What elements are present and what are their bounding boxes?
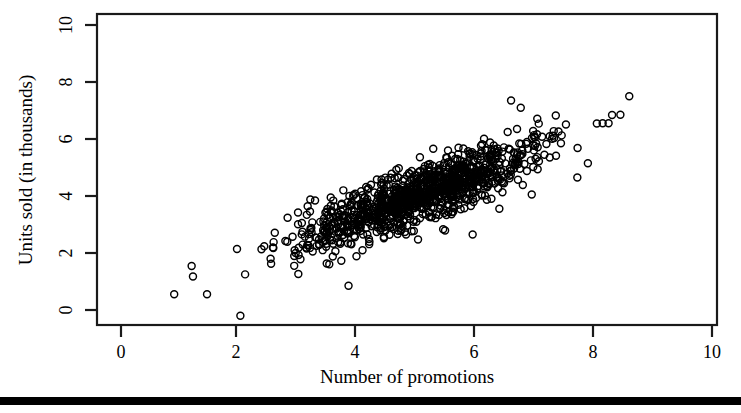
data-point-outlier-7 xyxy=(584,160,591,167)
x-tick-label-10: 10 xyxy=(703,342,721,362)
data-point xyxy=(440,226,447,233)
data-point-outlier-5 xyxy=(508,97,515,104)
plot-canvas: 0 2 4 6 8 10 0 2 4 6 8 10 Number of prom… xyxy=(0,0,741,413)
data-point xyxy=(188,263,195,270)
data-point xyxy=(517,104,524,111)
data-point-outlier-3 xyxy=(345,282,352,289)
data-point xyxy=(271,229,278,236)
data-point-outlier-11 xyxy=(626,93,633,100)
data-point xyxy=(609,111,616,118)
y-axis-ticks xyxy=(85,25,97,310)
x-tick-label-8: 8 xyxy=(589,342,598,362)
y-tick-label-8: 8 xyxy=(56,78,76,87)
data-point xyxy=(340,187,347,194)
data-point xyxy=(557,140,564,147)
data-point xyxy=(267,255,274,262)
scatter-plot-figure: 0 2 4 6 8 10 0 2 4 6 8 10 Number of prom… xyxy=(0,0,741,413)
data-point xyxy=(430,145,437,152)
data-point xyxy=(295,270,302,277)
y-tick-label-2: 2 xyxy=(56,249,76,258)
y-tick-label-10: 10 xyxy=(56,16,76,34)
x-axis-tick-labels: 0 2 4 6 8 10 xyxy=(117,342,722,362)
x-tick-label-6: 6 xyxy=(470,342,479,362)
x-tick-label-4: 4 xyxy=(351,342,360,362)
x-axis-title: Number of promotions xyxy=(320,366,494,387)
data-point xyxy=(499,189,506,196)
data-point xyxy=(488,195,495,202)
data-point xyxy=(284,214,291,221)
data-point xyxy=(312,197,319,204)
data-point xyxy=(552,112,559,119)
data-point xyxy=(338,257,345,264)
data-point-outlier-0 xyxy=(171,291,178,298)
x-axis-ticks xyxy=(121,325,712,337)
data-points-layer xyxy=(171,93,633,319)
data-point xyxy=(562,121,569,128)
data-point xyxy=(574,174,581,181)
data-point xyxy=(574,145,581,152)
data-point xyxy=(291,262,298,269)
bottom-divider-rule xyxy=(0,397,741,405)
data-point xyxy=(234,245,241,252)
data-point xyxy=(514,125,521,132)
x-tick-label-2: 2 xyxy=(232,342,241,362)
y-tick-label-0: 0 xyxy=(56,306,76,315)
data-point-outlier-1 xyxy=(237,312,244,319)
y-axis-tick-labels: 0 2 4 6 8 10 xyxy=(56,16,76,315)
data-point-outlier-10 xyxy=(617,111,624,118)
data-point xyxy=(204,291,211,298)
data-point xyxy=(416,154,423,161)
data-point xyxy=(519,182,526,189)
y-axis-title: Units sold (in thousands) xyxy=(15,75,37,266)
data-point xyxy=(415,236,422,243)
data-point xyxy=(543,140,550,147)
data-point xyxy=(504,129,511,136)
data-point xyxy=(295,209,302,216)
data-point-outlier-2 xyxy=(242,271,249,278)
data-point xyxy=(359,247,366,254)
data-point xyxy=(297,256,304,263)
data-point xyxy=(189,273,196,280)
data-point-outlier-4 xyxy=(469,231,476,238)
y-tick-label-6: 6 xyxy=(56,135,76,144)
x-tick-label-0: 0 xyxy=(117,342,126,362)
data-point-outlier-6 xyxy=(528,191,535,198)
data-point xyxy=(307,196,314,203)
data-point xyxy=(353,253,360,260)
y-tick-label-4: 4 xyxy=(56,192,76,201)
data-point xyxy=(496,205,503,212)
